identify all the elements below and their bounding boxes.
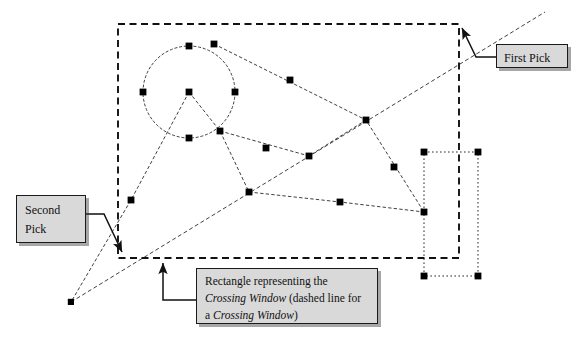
rectangle-note-leader — [163, 263, 196, 300]
rectangle-note-line3-emphasis: Crossing Window — [213, 309, 294, 321]
grip — [363, 117, 370, 124]
grip — [186, 89, 193, 96]
second-pick-label-line1: Second — [25, 201, 79, 220]
grip — [421, 273, 428, 280]
rectangle-note-line2-emphasis: Crossing Window — [205, 292, 286, 304]
grip — [421, 209, 428, 216]
rectangle-note-line3-prefix: a — [205, 309, 213, 321]
grip — [232, 89, 239, 96]
polyline-lower-chain — [249, 192, 424, 212]
grip — [128, 197, 135, 204]
rectangle-note-line1-text: Rectangle representing the — [205, 275, 328, 287]
grip — [337, 199, 344, 206]
first-pick-label: First Pick — [504, 48, 561, 68]
grip — [217, 128, 224, 135]
callout-rectangle-note[interactable]: Rectangle representing the Crossing Wind… — [196, 268, 378, 324]
rectangle-note-line3-suffix: ) — [294, 309, 298, 321]
grip — [186, 43, 193, 50]
grip — [140, 89, 147, 96]
grip — [287, 77, 294, 84]
callout-first-pick[interactable]: First Pick — [496, 44, 568, 68]
grip — [246, 189, 253, 196]
polyline-mid-chain — [220, 120, 366, 156]
rectangle-note-line3: a Crossing Window) — [205, 307, 371, 324]
rectangle-note-line2: Crossing Window (dashed line for — [205, 290, 371, 307]
grip — [421, 149, 428, 156]
polyline-right-vee — [189, 92, 249, 192]
callout-second-pick[interactable]: Second Pick — [16, 195, 86, 243]
grip — [68, 299, 74, 305]
second-pick-label-line2: Pick — [25, 220, 79, 239]
grip — [263, 145, 270, 152]
grip — [475, 149, 482, 156]
grip — [306, 153, 313, 160]
crossing-window-rectangle — [118, 24, 459, 258]
grip — [391, 164, 398, 171]
grip — [211, 41, 218, 48]
grip — [186, 135, 193, 142]
rectangle-note-line1: Rectangle representing the — [205, 273, 371, 290]
grip-squares — [68, 41, 482, 305]
grip — [475, 273, 482, 280]
polyline-upper-chain — [214, 44, 424, 212]
rectangle-note-line2-text: (dashed line for — [286, 292, 361, 304]
diagram-root: First Pick Second Pick Rectangle represe… — [0, 0, 587, 343]
